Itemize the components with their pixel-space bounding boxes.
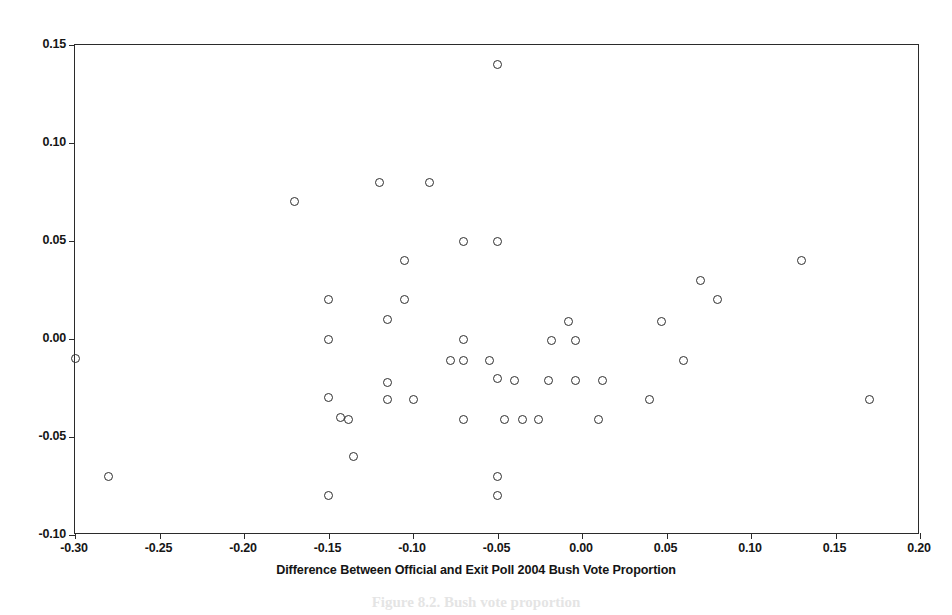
x-axis-tick: [160, 533, 161, 539]
data-point: [547, 336, 556, 345]
data-point: [696, 276, 705, 285]
data-point: [324, 335, 333, 344]
x-axis-tick: [244, 533, 245, 539]
data-point: [324, 393, 333, 402]
data-point: [493, 237, 502, 246]
data-point: [459, 237, 468, 246]
data-point: [400, 256, 409, 265]
data-point: [409, 395, 418, 404]
x-axis-tick-label: 0.00: [569, 541, 593, 555]
data-point: [645, 395, 654, 404]
y-axis-tick-labels: -0.10-0.050.000.050.100.15: [12, 44, 66, 534]
data-point: [534, 415, 543, 424]
figure-caption-remnant: Figure 8.2. Bush vote proportion: [0, 594, 952, 615]
data-point: [797, 256, 806, 265]
y-axis-tick-label: 0.10: [42, 135, 66, 149]
data-point: [679, 356, 688, 365]
data-point: [598, 376, 607, 385]
data-point: [290, 197, 299, 206]
x-axis-tick-label: -0.05: [483, 541, 511, 555]
data-point: [493, 491, 502, 500]
x-axis-tick: [413, 533, 414, 539]
data-point: [459, 415, 468, 424]
x-axis-title: Difference Between Official and Exit Pol…: [0, 563, 952, 577]
plot-area: [74, 44, 919, 534]
x-axis-tick-label: 0.15: [823, 541, 847, 555]
y-axis-tick-label: 0.15: [42, 37, 66, 51]
data-point: [510, 376, 519, 385]
data-point: [104, 472, 113, 481]
x-axis-tick-label: -0.25: [145, 541, 173, 555]
x-axis-tick: [667, 533, 668, 539]
data-point: [446, 356, 455, 365]
y-axis-tick-label: -0.05: [39, 429, 67, 443]
x-axis-tick-label: 0.20: [907, 541, 931, 555]
x-axis-tick-label: -0.15: [314, 541, 342, 555]
y-axis-tick: [69, 143, 75, 144]
data-point: [383, 378, 392, 387]
data-point: [500, 415, 509, 424]
data-point: [493, 374, 502, 383]
y-axis-tick-label: -0.10: [39, 527, 67, 541]
y-axis-tick: [69, 241, 75, 242]
x-axis-tick: [329, 533, 330, 539]
x-axis-tick-label: -0.30: [60, 541, 88, 555]
data-point: [571, 336, 580, 345]
data-point: [400, 295, 409, 304]
data-point: [657, 317, 666, 326]
y-axis-tick: [69, 437, 75, 438]
x-axis-tick-labels: -0.30-0.25-0.20-0.15-0.10-0.050.000.050.…: [74, 541, 919, 559]
x-axis-tick: [920, 533, 921, 539]
x-axis-tick: [582, 533, 583, 539]
data-point: [493, 60, 502, 69]
x-axis-tick: [498, 533, 499, 539]
data-point: [865, 395, 874, 404]
data-point: [571, 376, 580, 385]
x-axis-tick-label: -0.10: [398, 541, 426, 555]
data-point: [594, 415, 603, 424]
data-point: [493, 472, 502, 481]
data-point: [375, 178, 384, 187]
x-axis-tick: [751, 533, 752, 539]
data-point: [518, 415, 527, 424]
data-point: [324, 491, 333, 500]
data-point: [564, 317, 573, 326]
data-point: [485, 356, 494, 365]
data-point: [349, 452, 358, 461]
y-axis-tick: [69, 339, 75, 340]
data-point: [425, 178, 434, 187]
x-axis-tick: [75, 533, 76, 539]
data-point: [383, 395, 392, 404]
data-point: [713, 295, 722, 304]
x-axis-tick-label: -0.20: [229, 541, 257, 555]
data-point: [544, 376, 553, 385]
x-axis-tick-label: 0.05: [654, 541, 678, 555]
y-axis-tick-label: 0.05: [42, 233, 66, 247]
x-axis-tick-label: 0.10: [738, 541, 762, 555]
data-point: [383, 315, 392, 324]
data-point: [71, 354, 80, 363]
x-axis-tick: [836, 533, 837, 539]
data-point: [459, 335, 468, 344]
data-point: [459, 356, 468, 365]
y-axis-tick-label: 0.00: [42, 331, 66, 345]
data-point: [324, 295, 333, 304]
data-point: [344, 415, 353, 424]
scatter-figure: -0.10-0.050.000.050.100.15 -0.30-0.25-0.…: [0, 0, 952, 615]
y-axis-tick: [69, 45, 75, 46]
